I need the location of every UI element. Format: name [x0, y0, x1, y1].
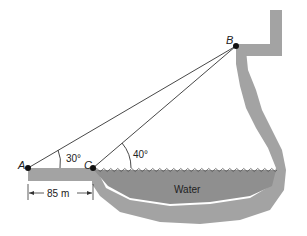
- line-A-B: [28, 46, 236, 168]
- line-C-B: [93, 46, 236, 168]
- label-A: A: [17, 159, 25, 171]
- dim-arrow-left: [29, 191, 34, 195]
- dim-arrow-right: [87, 191, 92, 195]
- angle-label-A: 30°: [66, 153, 81, 164]
- label-C: C: [84, 159, 92, 171]
- diagram-canvas: A C B 30° 40° Water 85 m: [0, 0, 307, 236]
- point-B: [233, 43, 239, 49]
- angle-label-C: 40°: [133, 149, 148, 160]
- point-A: [25, 165, 31, 171]
- angle-arc-C: [122, 143, 131, 168]
- distance-label: 85 m: [47, 188, 69, 199]
- water-label: Water: [174, 184, 201, 195]
- label-B: B: [226, 34, 233, 46]
- angle-arc-A: [58, 150, 60, 168]
